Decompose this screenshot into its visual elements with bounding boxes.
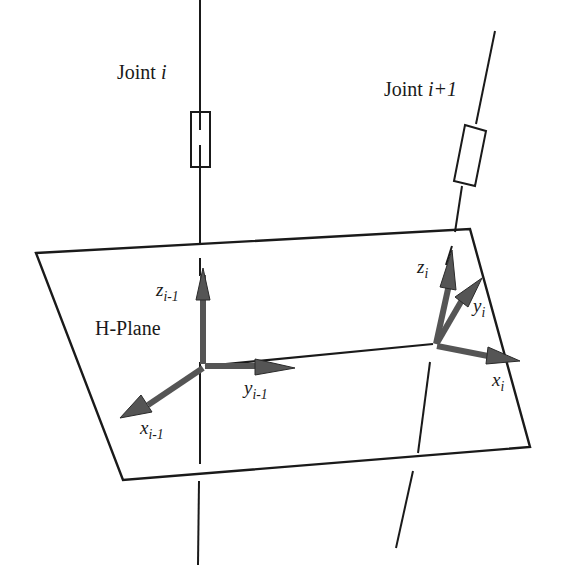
h-plane xyxy=(36,229,530,480)
z-axis-arrow-i-minus-1 xyxy=(196,268,210,364)
joint-i-plus-1-label: Joint i+1 xyxy=(384,79,457,99)
y-axis-label-i-minus-1: yi-1 xyxy=(244,378,268,401)
z-axis-label-i: zi xyxy=(417,257,428,280)
joint-i-label-index: i xyxy=(161,61,167,83)
y-axis-label-i: yi xyxy=(473,296,485,319)
joint-i-label-name: Joint xyxy=(117,61,156,83)
x-axis-label-i-minus-1: xi-1 xyxy=(140,418,164,441)
frame-i-minus-1 xyxy=(120,268,295,418)
x-axis-arrow-i-minus-1 xyxy=(120,368,203,418)
joint-i-actuator xyxy=(191,112,210,167)
joint-i-plus-1-label-name: Joint xyxy=(384,78,423,100)
joint-i-plus-1-label-index: i+1 xyxy=(428,78,457,100)
common-normal-line xyxy=(205,344,433,366)
x-axis-label-i: xi xyxy=(492,370,504,393)
x-axis-arrow-i xyxy=(437,346,520,364)
joint-i-label: Joint i xyxy=(117,62,166,82)
kinematics-diagram xyxy=(0,0,583,575)
z-axis-label-i-minus-1: zi-1 xyxy=(156,280,179,303)
h-plane-label: H-Plane xyxy=(95,318,161,338)
joint-i-plus-1-actuator xyxy=(454,125,486,186)
